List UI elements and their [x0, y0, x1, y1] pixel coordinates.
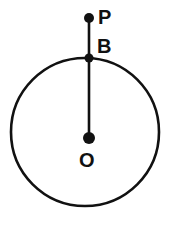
- point-o-marker: [83, 132, 95, 144]
- point-p-label: P: [98, 7, 111, 27]
- point-o-label: O: [79, 150, 95, 170]
- geometry-canvas: [0, 0, 179, 227]
- circle-outline: [11, 58, 159, 206]
- point-p-marker: [84, 13, 94, 23]
- point-b-marker: [85, 54, 94, 63]
- geometry-figure: P B O: [0, 0, 179, 227]
- point-b-label: B: [97, 36, 111, 56]
